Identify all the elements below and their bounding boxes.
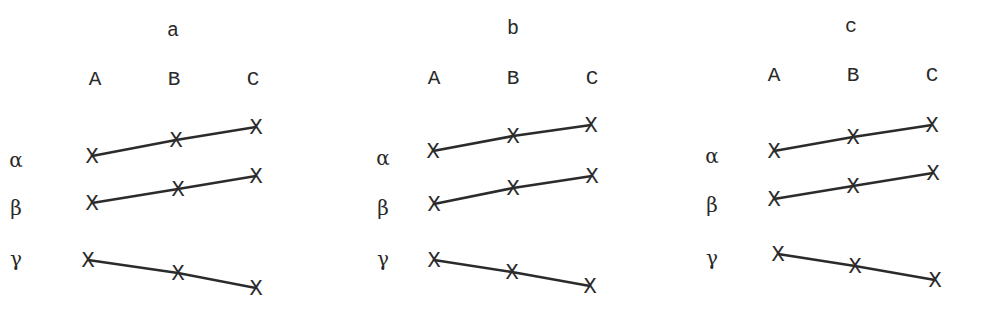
panel-a: aABCαXXXβXXXγXXX <box>9 19 262 302</box>
column-label-C: C <box>247 68 260 91</box>
row-label: β <box>10 196 22 220</box>
row-label: α <box>9 148 23 172</box>
row-label: γ <box>377 247 389 271</box>
x-marker-icon: X <box>846 175 859 200</box>
row-label: β <box>706 193 718 217</box>
x-marker-icon: X <box>585 165 598 190</box>
x-marker-icon: X <box>767 140 780 165</box>
x-marker-icon: X <box>506 125 519 150</box>
series-row: βXXX <box>377 165 598 220</box>
series-row: γXXX <box>377 247 597 300</box>
column-label-C: C <box>586 67 599 90</box>
series-row: αXXX <box>9 116 262 172</box>
x-marker-icon: X <box>85 192 98 217</box>
series-row: αXXX <box>376 114 597 170</box>
series-row: βXXX <box>706 162 939 217</box>
column-label-B: B <box>168 68 181 91</box>
column-label-A: A <box>89 68 102 91</box>
panel-title: c <box>845 15 857 38</box>
x-marker-icon: X <box>249 165 262 190</box>
x-marker-icon: X <box>249 277 262 302</box>
x-marker-icon: X <box>171 262 184 287</box>
x-marker-icon: X <box>848 255 861 280</box>
x-marker-icon: X <box>846 126 859 151</box>
x-marker-icon: X <box>583 275 596 300</box>
x-marker-icon: X <box>169 129 182 154</box>
series-row: γXXX <box>706 243 942 294</box>
row-label: γ <box>10 247 22 271</box>
x-marker-icon: X <box>505 261 518 286</box>
x-marker-icon: X <box>506 177 519 202</box>
column-label-B: B <box>507 67 520 90</box>
panel-title: a <box>167 19 179 42</box>
x-marker-icon: X <box>171 178 184 203</box>
x-marker-icon: X <box>427 193 440 218</box>
x-marker-icon: X <box>584 114 597 139</box>
diagram-canvas: aABCαXXXβXXXγXXXbABCαXXXβXXXγXXXcABCαXXX… <box>0 0 987 318</box>
column-label-B: B <box>847 64 860 87</box>
x-marker-icon: X <box>771 243 784 268</box>
x-marker-icon: X <box>85 145 98 170</box>
x-marker-icon: X <box>767 188 780 213</box>
x-marker-icon: X <box>426 140 439 165</box>
x-marker-icon: X <box>926 162 939 187</box>
column-label-A: A <box>768 64 781 87</box>
panel-title: b <box>507 17 519 40</box>
row-label: α <box>376 146 390 170</box>
series-row: γXXX <box>10 247 263 302</box>
panel-c: cABCαXXXβXXXγXXX <box>705 15 941 294</box>
row-label: α <box>705 144 719 168</box>
panel-b: bABCαXXXβXXXγXXX <box>376 17 598 300</box>
x-marker-icon: X <box>427 249 440 274</box>
x-marker-icon: X <box>928 269 941 294</box>
x-marker-icon: X <box>81 249 94 274</box>
series-row: αXXX <box>705 114 938 168</box>
x-marker-icon: X <box>249 116 262 141</box>
row-label: β <box>377 196 389 220</box>
diagram-svg: aABCαXXXβXXXγXXXbABCαXXXβXXXγXXXcABCαXXX… <box>0 0 987 318</box>
column-label-C: C <box>926 64 939 87</box>
x-marker-icon: X <box>925 114 938 139</box>
column-label-A: A <box>428 67 441 90</box>
series-row: βXXX <box>10 165 262 220</box>
row-label: γ <box>706 246 718 270</box>
